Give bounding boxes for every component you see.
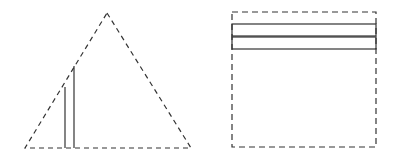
square-shape <box>232 12 376 147</box>
square-strip-2 <box>232 37 376 49</box>
diagram-canvas <box>0 0 395 159</box>
triangle-shape <box>25 13 191 148</box>
square-outline <box>232 12 376 147</box>
triangle-outline <box>25 13 191 148</box>
square-strip-1 <box>232 24 376 36</box>
